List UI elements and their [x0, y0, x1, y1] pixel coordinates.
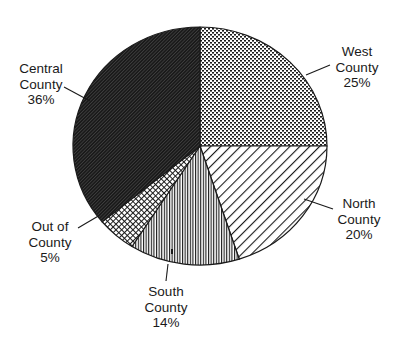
label-central-line2: County	[12, 77, 70, 93]
leader-line-out-of-county	[78, 215, 100, 228]
leader-line-south	[166, 264, 168, 281]
label-south-line1: South	[139, 284, 193, 300]
label-west-line2: County	[330, 60, 384, 76]
label-north-line1: North	[332, 196, 386, 212]
label-west-line1: West	[330, 44, 384, 60]
label-north-county: North County 20%	[332, 196, 386, 243]
label-central-line1: Central	[12, 61, 70, 77]
label-south-county: South County 14%	[139, 284, 193, 331]
label-south-line2: County	[139, 300, 193, 316]
pie-slices	[73, 27, 327, 265]
label-west-pct: 25%	[330, 75, 384, 91]
leader-line-west	[306, 65, 330, 75]
label-west-county: West County 25%	[330, 44, 384, 91]
label-out-of-county: Out of County 5%	[22, 219, 78, 266]
speck-mark	[171, 249, 173, 254]
label-out-line1: Out of	[22, 219, 78, 235]
label-out-line2: County	[22, 235, 78, 251]
label-central-county: Central County 36%	[12, 61, 70, 108]
label-north-pct: 20%	[332, 227, 386, 243]
label-out-pct: 5%	[22, 250, 78, 266]
pie-slice-west-county	[200, 27, 327, 146]
label-central-pct: 36%	[12, 92, 70, 108]
label-north-line2: County	[332, 212, 386, 228]
label-south-pct: 14%	[139, 315, 193, 331]
